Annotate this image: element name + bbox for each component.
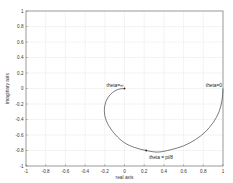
x-tick-label: 0.4: [161, 169, 168, 174]
x-tick-label: 0.8: [200, 169, 207, 174]
y-tick-label: -0.8: [16, 148, 24, 153]
x-tick-labels: -1-0.8-0.6-0.4-0.200.20.40.60.81: [24, 169, 225, 174]
annotation-label: theta=∞: [107, 83, 124, 88]
x-tick-label: 0.6: [180, 169, 187, 174]
x-tick-label: -0.2: [101, 169, 109, 174]
y-tick-labels: 10.80.60.40.20-0.2-0.4-0.6-0.8-1: [16, 9, 24, 169]
y-tick-label: 1: [21, 9, 24, 14]
nyquist-chart: -1-0.8-0.6-0.4-0.200.20.40.60.81 10.80.6…: [0, 0, 233, 183]
x-tick-label: -0.6: [61, 169, 69, 174]
y-axis-label: imaginary axis: [5, 73, 10, 104]
y-tick-label: 0: [21, 86, 24, 91]
y-tick-label: -0.4: [16, 117, 24, 122]
y-tick-label: -0.2: [16, 102, 24, 107]
x-tick-label: 1: [222, 169, 225, 174]
data-marker: [145, 150, 147, 152]
y-tick-label: 0.2: [17, 71, 24, 76]
x-tick-label: -1: [24, 169, 29, 174]
x-tick-label: 0: [123, 169, 126, 174]
annotation-label: theta = pi/8: [149, 155, 173, 160]
x-tick-label: 0.2: [141, 169, 148, 174]
annotation-label: theta=0: [206, 83, 222, 88]
x-tick-label: -0.8: [42, 169, 50, 174]
x-axis-label: real axis: [116, 175, 134, 180]
y-tick-label: 0.4: [17, 55, 24, 60]
y-tick-label: -1: [19, 164, 24, 169]
data-marker: [124, 88, 126, 90]
y-tick-label: -0.6: [16, 133, 24, 138]
x-tick-label: -0.4: [81, 169, 89, 174]
y-tick-label: 0.8: [17, 24, 24, 29]
y-tick-label: 0.6: [17, 40, 24, 45]
